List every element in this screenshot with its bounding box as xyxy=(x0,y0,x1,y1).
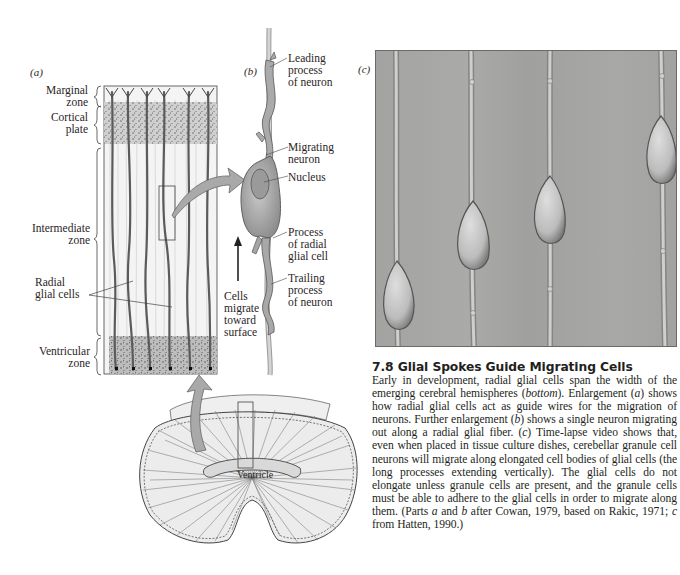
micrograph-photo xyxy=(375,50,677,347)
label-migrating-neuron: Migratingneuron xyxy=(288,141,334,165)
label-leading-process: Leadingprocessof neuron xyxy=(288,52,332,88)
panel-b-tag: (b) xyxy=(244,65,257,77)
caption-text: Early in development, radial glial cells… xyxy=(372,374,677,531)
cerebral-hemispheres-drawing xyxy=(140,375,357,543)
figure-title: 7.8 Glial Spokes Guide Migrating Cells xyxy=(372,360,677,374)
figure-caption: 7.8 Glial Spokes Guide Migrating Cells E… xyxy=(372,360,677,531)
label-nucleus: Nucleus xyxy=(288,171,326,183)
label-trailing-process: Trailingprocessof neuron xyxy=(288,272,332,308)
label-process-radial-glial-cell: Processof radialglial cell xyxy=(288,226,328,262)
label-ventricle: Ventricle xyxy=(237,469,273,481)
panel-c-tag: (c) xyxy=(358,63,370,75)
label-cells-migrate-toward-surface: Cellsmigratetowardsurface xyxy=(224,290,259,338)
